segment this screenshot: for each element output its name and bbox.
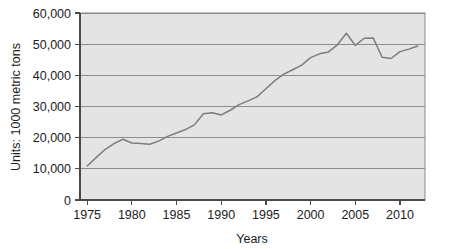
y-tick-label: 30,000 <box>33 100 71 114</box>
y-tick-label: 10,000 <box>33 162 71 176</box>
y-tick-label: 0 <box>64 194 71 208</box>
y-tick-label: 60,000 <box>33 7 71 21</box>
x-tick-label: 1985 <box>163 208 191 222</box>
y-axis-ticks: 010,00020,00030,00040,00050,00060,000 <box>33 7 80 208</box>
x-tick-label: 2000 <box>297 208 325 222</box>
x-axis-ticks: 19751980198519901995200020052010 <box>73 200 414 222</box>
x-tick-label: 1980 <box>118 208 146 222</box>
y-tick-label: 50,000 <box>33 38 71 52</box>
chart-svg: 010,00020,00030,00040,00050,00060,000 19… <box>0 0 451 249</box>
x-axis-title: Years <box>236 232 268 246</box>
line-chart: 010,00020,00030,00040,00050,00060,000 19… <box>0 0 451 249</box>
y-tick-label: 20,000 <box>33 131 71 145</box>
x-tick-label: 2005 <box>341 208 369 222</box>
x-tick-label: 1995 <box>252 208 280 222</box>
x-tick-label: 1975 <box>73 208 101 222</box>
y-axis-title: Units: 1000 metric tons <box>9 43 23 171</box>
x-tick-label: 1990 <box>207 208 235 222</box>
x-tick-label: 2010 <box>386 208 414 222</box>
y-tick-label: 40,000 <box>33 69 71 83</box>
